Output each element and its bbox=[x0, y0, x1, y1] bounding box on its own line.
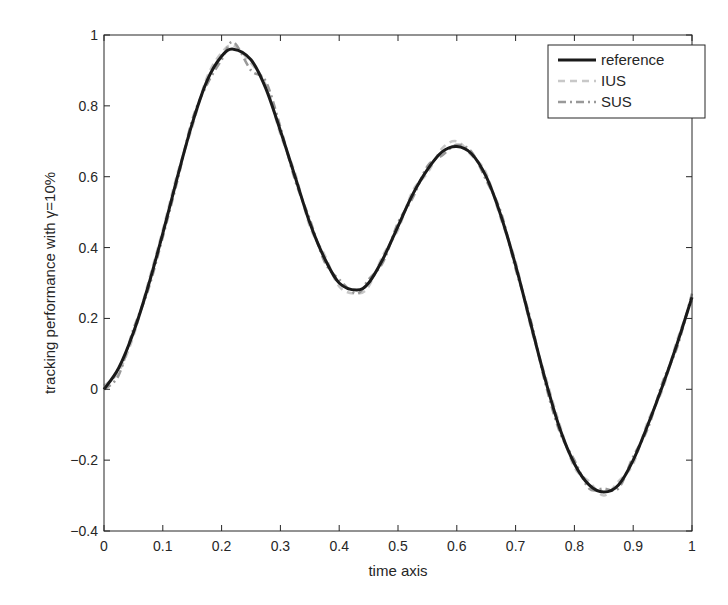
legend-label: reference bbox=[601, 51, 664, 68]
y-tick-label: −0.4 bbox=[70, 523, 98, 539]
y-axis-label: tracking performance with γ=10% bbox=[41, 172, 58, 394]
x-tick-label: 0.9 bbox=[623, 538, 643, 554]
y-tick-label: 0.8 bbox=[79, 98, 99, 114]
y-tick-label: 0 bbox=[90, 381, 98, 397]
legend: reference IUS SUS bbox=[548, 45, 705, 118]
legend-label: SUS bbox=[601, 93, 632, 110]
line-chart: 00.10.20.30.40.50.60.70.80.91−0.4−0.200.… bbox=[0, 0, 728, 605]
y-tick-label: 1 bbox=[90, 27, 98, 43]
x-axis-label: time axis bbox=[368, 562, 427, 579]
x-tick-label: 0.8 bbox=[565, 538, 585, 554]
x-tick-label: 0.6 bbox=[447, 538, 467, 554]
y-tick-label: −0.2 bbox=[70, 452, 98, 468]
x-tick-label: 0.5 bbox=[388, 538, 408, 554]
x-tick-label: 0.1 bbox=[153, 538, 173, 554]
x-tick-label: 1 bbox=[688, 538, 696, 554]
y-tick-label: 0.2 bbox=[79, 310, 99, 326]
x-tick-label: 0.2 bbox=[212, 538, 232, 554]
x-tick-label: 0.4 bbox=[329, 538, 349, 554]
legend-label: IUS bbox=[601, 72, 626, 89]
x-tick-label: 0.3 bbox=[271, 538, 291, 554]
x-tick-label: 0.7 bbox=[506, 538, 526, 554]
y-tick-label: 0.6 bbox=[79, 169, 99, 185]
x-tick-label: 0 bbox=[100, 538, 108, 554]
y-tick-label: 0.4 bbox=[79, 240, 99, 256]
